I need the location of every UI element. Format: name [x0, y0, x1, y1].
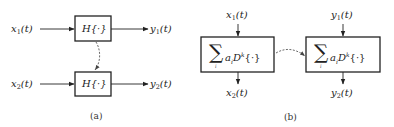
- sigma-index-b2: i: [320, 64, 322, 69]
- caption-b: (b): [284, 113, 297, 122]
- caption-a: (a): [90, 112, 102, 121]
- input-label-a2: x2(t): [11, 79, 33, 92]
- dashed-connector-a: [95, 42, 100, 70]
- box-expr-b2: aiDk{·}: [330, 50, 365, 67]
- input-label-b1: x1(t): [226, 10, 248, 23]
- output-label-a1: y1(t): [150, 24, 172, 37]
- sigma-symbol-b1: ∑: [209, 42, 223, 62]
- box-label-a1: H{·}: [82, 24, 107, 34]
- box-label-a2: H{·}: [82, 79, 107, 89]
- sigma-symbol-b2: ∑: [314, 42, 328, 62]
- sigma-index-b1: i: [215, 64, 217, 69]
- output-label-b1: x2(t): [226, 88, 248, 101]
- input-label-a1: x1(t): [11, 24, 33, 37]
- dashed-connector-b: [276, 49, 305, 56]
- input-label-b2: y1(t): [331, 10, 353, 23]
- box-expr-b1: aiDk{·}: [225, 50, 260, 67]
- output-label-b2: y2(t): [331, 88, 353, 101]
- diagram-canvas: x1(t) x2(t) y1(t) y2(t) H{·} H{·} (a) x1…: [0, 0, 394, 127]
- output-label-a2: y2(t): [150, 79, 172, 92]
